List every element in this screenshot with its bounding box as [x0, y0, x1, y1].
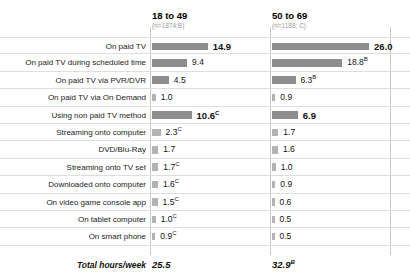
- value-bar: [152, 146, 158, 154]
- value-bar: [152, 94, 156, 102]
- chart-cell: 0.9: [272, 176, 392, 193]
- value-bar: [152, 198, 158, 206]
- chart-header: 18 to 49 (n=1874;B) 50 to 69 (n=1188; C): [0, 10, 410, 36]
- chart-row: On paid TV via On Demand1.00.9: [0, 89, 410, 106]
- value-bar: [272, 129, 278, 137]
- chart-cell: 0.9: [272, 89, 392, 106]
- chart-cell: 6.9: [272, 107, 392, 124]
- chart-cell: 0.5: [272, 228, 392, 245]
- value-label: 10.6C: [197, 107, 220, 124]
- chart-cell: 9.4: [152, 54, 272, 71]
- total-value-column-2: 32.9B: [272, 256, 295, 274]
- row-label: On video game console app: [0, 194, 146, 211]
- significance-superscript: C: [215, 109, 219, 115]
- chart-rows: On paid TV14.926.0On paid TV during sche…: [0, 37, 410, 246]
- value-label: 26.0: [374, 38, 393, 55]
- value-label: 1.0: [161, 89, 173, 106]
- value-label: 0.6: [280, 194, 292, 211]
- chart-cell: 18.8B: [272, 54, 392, 71]
- row-label: On paid TV during scheduled time: [0, 54, 146, 71]
- value-label: 0.9C: [160, 228, 176, 245]
- value-label: 0.9: [280, 176, 292, 193]
- chart-cell: 1.7C: [152, 159, 272, 176]
- total-row: Total hours/week 25.5 32.9B: [0, 256, 410, 274]
- chart-cell: 6.3B: [272, 72, 392, 89]
- significance-superscript: C: [175, 161, 179, 167]
- column-header-title-1: 18 to 49: [152, 10, 187, 21]
- chart-cell: 0.6: [272, 194, 392, 211]
- value-label: 1.6C: [163, 176, 179, 193]
- comparison-bar-chart: 18 to 49 (n=1874;B) 50 to 69 (n=1188; C)…: [0, 0, 410, 279]
- value-bar: [272, 216, 275, 224]
- value-label: 18.8B: [347, 54, 368, 71]
- chart-cell: 1.6: [272, 141, 392, 158]
- value-label: 1.0C: [161, 211, 177, 228]
- value-label: 4.5: [174, 72, 186, 89]
- value-label: 1.6: [283, 141, 295, 158]
- value-bar: [272, 146, 278, 154]
- column-header-sublabel-1: (n=1874;B): [152, 21, 187, 30]
- value-bar: [272, 59, 342, 67]
- value-bar: [152, 163, 158, 171]
- chart-cell: 0.9C: [152, 228, 272, 245]
- column-header-group-2: 50 to 69 (n=1188; C): [272, 10, 307, 30]
- value-bar: [152, 216, 156, 224]
- significance-superscript: B: [291, 259, 295, 265]
- chart-row: On video game console app1.5C0.6: [0, 194, 410, 211]
- value-bar: [152, 59, 187, 67]
- value-bar: [152, 76, 169, 84]
- significance-superscript: C: [172, 230, 176, 236]
- chart-cell: 26.0: [272, 38, 392, 55]
- value-bar: [152, 129, 161, 137]
- significance-superscript: B: [364, 57, 368, 63]
- row-label: On smart phone: [0, 228, 146, 245]
- chart-row: On tablet computer1.0C0.5: [0, 211, 410, 228]
- value-bar: [152, 233, 155, 241]
- value-bar: [272, 163, 276, 171]
- significance-superscript: B: [312, 74, 316, 80]
- chart-cell: 10.6C: [152, 107, 272, 124]
- value-bar: [272, 111, 298, 119]
- chart-row: On paid TV during scheduled time9.418.8B: [0, 54, 410, 71]
- total-row-label: Total hours/week: [0, 256, 146, 274]
- value-label: 1.5C: [163, 194, 179, 211]
- chart-row: Streaming onto TV set1.7C1.0: [0, 159, 410, 176]
- column-header-group-1: 18 to 49 (n=1874;B): [152, 10, 187, 30]
- chart-cell: 1.0: [152, 89, 272, 106]
- value-label: 1.7: [283, 124, 295, 141]
- row-label: Downloaded onto computer: [0, 176, 146, 193]
- column-header-title-2: 50 to 69: [272, 10, 307, 21]
- value-label: 0.9: [280, 89, 292, 106]
- value-label: 2.3C: [166, 124, 182, 141]
- chart-cell: 2.3C: [152, 124, 272, 141]
- value-label: 6.3B: [301, 72, 317, 89]
- value-label: 1.0: [281, 159, 293, 176]
- significance-superscript: C: [177, 126, 181, 132]
- row-label: On paid TV via PVR/DVR: [0, 72, 146, 89]
- column-header-sublabel-2: (n=1188; C): [272, 21, 307, 30]
- value-label: 1.7C: [163, 159, 179, 176]
- value-bar: [272, 198, 275, 206]
- row-label: On paid TV: [0, 38, 146, 55]
- chart-row: On smart phone0.9C0.5: [0, 228, 410, 245]
- value-label: 1.7: [163, 141, 175, 158]
- value-label: 14.9: [213, 38, 232, 55]
- value-bar: [272, 94, 275, 102]
- chart-cell: 4.5: [152, 72, 272, 89]
- value-bar: [272, 76, 296, 84]
- chart-cell: 1.7: [152, 141, 272, 158]
- row-label: Using non paid TV method: [0, 107, 146, 124]
- chart-cell: 1.0C: [152, 211, 272, 228]
- chart-cell: 0.5: [272, 211, 392, 228]
- significance-superscript: C: [174, 196, 178, 202]
- value-bar: [272, 43, 369, 51]
- value-label: 0.5: [280, 228, 292, 245]
- chart-cell: 14.9: [152, 38, 272, 55]
- value-bar: [152, 111, 192, 119]
- chart-cell: 1.7: [272, 124, 392, 141]
- chart-cell: 1.6C: [152, 176, 272, 193]
- chart-row: Downloaded onto computer1.6C0.9: [0, 176, 410, 193]
- significance-superscript: C: [175, 178, 179, 184]
- chart-row: Using non paid TV method10.6C6.9: [0, 107, 410, 124]
- value-bar: [152, 43, 208, 51]
